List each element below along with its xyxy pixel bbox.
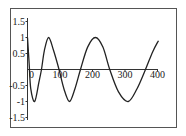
y-tick-label: -0.5 [9,80,25,91]
y-tick-label: -1 [17,96,25,107]
y-tick-label: 1.5 [13,16,26,27]
y-tick-label: 1 [20,32,25,43]
line-chart: 1.510.5-0.5-1-1.5 0100200300400 [0,0,186,136]
y-tick-label: 0.5 [13,48,26,59]
y-tick-label: -1.5 [9,112,25,123]
